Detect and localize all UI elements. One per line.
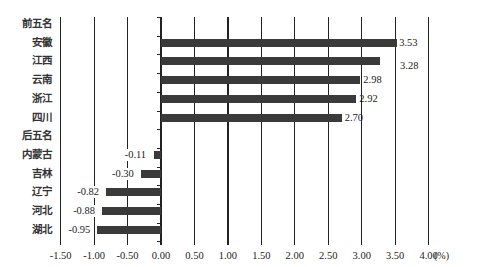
axis-tick [157,111,161,112]
axis-tick [157,185,161,186]
bar [161,114,342,122]
axis-tick [157,73,161,74]
gridline [194,17,195,245]
category-label: 湖北 [32,223,52,235]
axis-tick [157,92,161,93]
x-tick-label: -0.50 [117,250,139,262]
gridline [294,17,295,245]
axis-tick [157,167,161,168]
gridline [227,17,228,245]
x-tick-label: -1.50 [50,250,72,262]
value-label: 2.92 [359,93,377,105]
bar [102,207,161,215]
bar [141,170,161,178]
bar-chart: 前五名安徽江西云南浙江四川后五名内蒙古吉林辽宁河北湖北 3.533.282.98… [0,0,478,267]
value-label: 2.98 [363,74,381,86]
axis-tick [157,54,161,55]
bar [161,39,397,47]
x-tick-label: -1.00 [83,250,105,262]
axis-tick [157,148,161,149]
category-label: 河北 [32,204,52,216]
category-label: 江西 [32,54,52,66]
x-tick-label: 2.50 [319,250,337,262]
value-label: 2.70 [345,112,363,124]
axis-tick [157,17,161,18]
gridline [60,17,61,245]
bar [161,57,380,65]
x-tick-label: 0.50 [185,250,203,262]
category-label: 辽宁 [32,185,52,197]
category-label: 四川 [32,111,52,123]
category-label: 安徽 [32,36,52,48]
x-tick-label: 1.50 [252,250,270,262]
x-tick-label: 2.00 [286,250,304,262]
group-header-label: 后五名 [22,129,52,141]
bar [154,151,161,159]
value-label: -0.30 [111,168,135,180]
gridline [261,17,262,245]
bar [97,226,161,234]
value-label: 3.53 [399,37,417,49]
category-label: 浙江 [32,92,52,104]
axis-tick [157,241,161,242]
gridline [328,17,329,245]
category-label: 吉林 [32,167,52,179]
value-label: -0.82 [76,186,100,198]
x-tick-label: 3.00 [353,250,371,262]
axis-tick [157,36,161,37]
value-label: 3.28 [400,60,418,72]
gridline [395,17,396,245]
x-tick-label: 1.00 [219,250,237,262]
axis-tick [157,204,161,205]
axis-tick [157,129,161,130]
bar [106,188,161,196]
gridline [428,17,429,245]
value-label: -0.88 [72,205,96,217]
bar [161,95,356,103]
category-label: 云南 [32,73,52,85]
x-tick-label: 3.50 [386,250,404,262]
category-label: 内蒙古 [22,148,52,160]
x-tick-label: 0.00 [152,250,170,262]
value-label: -0.11 [124,149,147,161]
x-axis-unit: (%) [434,250,449,262]
value-label: -0.95 [67,224,91,236]
bar [161,76,360,84]
axis-tick [157,223,161,224]
group-header-label: 前五名 [22,17,52,29]
gridline [361,17,362,245]
